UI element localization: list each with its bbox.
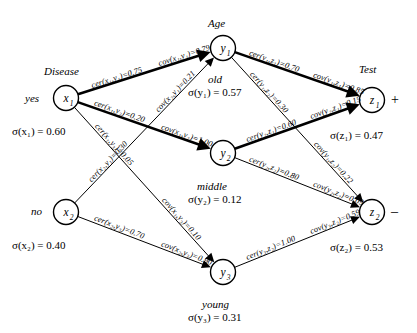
- diagram-canvas: x1x2y1y2y3z1z2 Disease Age Test yes no o…: [0, 0, 417, 333]
- node-symbol-y2: y: [219, 147, 226, 160]
- node-index-y3: 3: [226, 273, 231, 282]
- node-sign-label-z2: –: [391, 205, 398, 219]
- node-state-label-y2: middle: [197, 181, 227, 192]
- node-y1[interactable]: y1: [211, 36, 236, 61]
- node-symbol-y1: y: [219, 42, 226, 55]
- node-sign-label-z1: +: [391, 93, 399, 107]
- node-index-y1: 1: [227, 49, 231, 58]
- sigma-value-z1: σ(z₁) = 0.47: [330, 130, 383, 141]
- node-side-label-x2: no: [31, 206, 42, 217]
- group-label-disease: Disease: [44, 66, 79, 77]
- sigma-value-x2: σ(x₂) = 0.40: [12, 240, 66, 251]
- node-x1[interactable]: x1: [54, 86, 79, 111]
- node-symbol-x1: x: [62, 92, 69, 104]
- sigma-value-y2: σ(y₂) = 0.12: [188, 194, 242, 205]
- node-index-z2: 2: [376, 213, 380, 222]
- node-y3[interactable]: y3: [211, 260, 236, 285]
- node-state-label-y1: old: [208, 74, 222, 85]
- node-index-x1: 1: [70, 99, 74, 108]
- node-state-label-y3: young: [202, 299, 229, 310]
- node-index-z1: 1: [376, 101, 380, 110]
- node-y2[interactable]: y2: [211, 141, 236, 166]
- group-label-age: Age: [208, 18, 225, 29]
- node-symbol-z1: z: [369, 94, 375, 106]
- sigma-value-y3: σ(y₃) = 0.31: [188, 312, 242, 323]
- node-index-x2: 2: [70, 213, 74, 222]
- node-x2[interactable]: x2: [54, 200, 79, 225]
- node-side-label-x1: yes: [25, 93, 39, 104]
- sigma-value-x1: σ(x₁) = 0.60: [12, 126, 66, 137]
- node-symbol-x2: x: [62, 206, 69, 218]
- node-symbol-y3: y: [219, 266, 226, 279]
- sigma-value-z2: σ(z₂) = 0.53: [330, 242, 383, 253]
- node-index-y2: 2: [227, 154, 231, 163]
- group-label-test: Test: [359, 64, 376, 75]
- node-symbol-z2: z: [369, 206, 375, 218]
- sigma-value-y1: σ(y₁) = 0.57: [188, 87, 242, 98]
